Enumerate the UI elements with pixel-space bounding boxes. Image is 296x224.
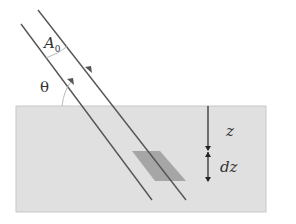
slice-thickness-label: dz	[220, 158, 238, 176]
area-subscript: 0	[55, 44, 61, 54]
area-label-text: A	[44, 34, 55, 52]
angle-label: θ	[40, 78, 49, 96]
beam-attenuation-diagram: A0 θ z dz	[0, 0, 296, 224]
beam-arrow-left	[67, 78, 74, 85]
area-label: A0	[44, 34, 61, 54]
depth-label: z	[226, 122, 234, 140]
